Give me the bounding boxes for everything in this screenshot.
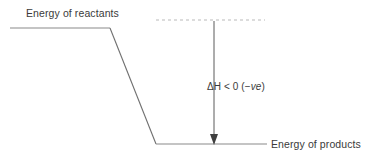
reaction-slope-line [110,28,156,144]
energy-profile-svg [0,0,367,161]
reactants-level-label: Energy of reactants [26,8,119,19]
enthalpy-change-label: ΔH < 0 (−ve) [207,82,265,92]
energy-profile-diagram: Energy of reactants Energy of products Δ… [0,0,367,161]
enthalpy-prefix-text: ΔH < 0 (− [207,81,251,92]
products-level-label: Energy of products [271,139,361,150]
enthalpy-italic-text: ve [251,81,262,92]
enthalpy-suffix-text: ) [261,81,264,92]
enthalpy-arrowhead-icon [210,134,218,145]
